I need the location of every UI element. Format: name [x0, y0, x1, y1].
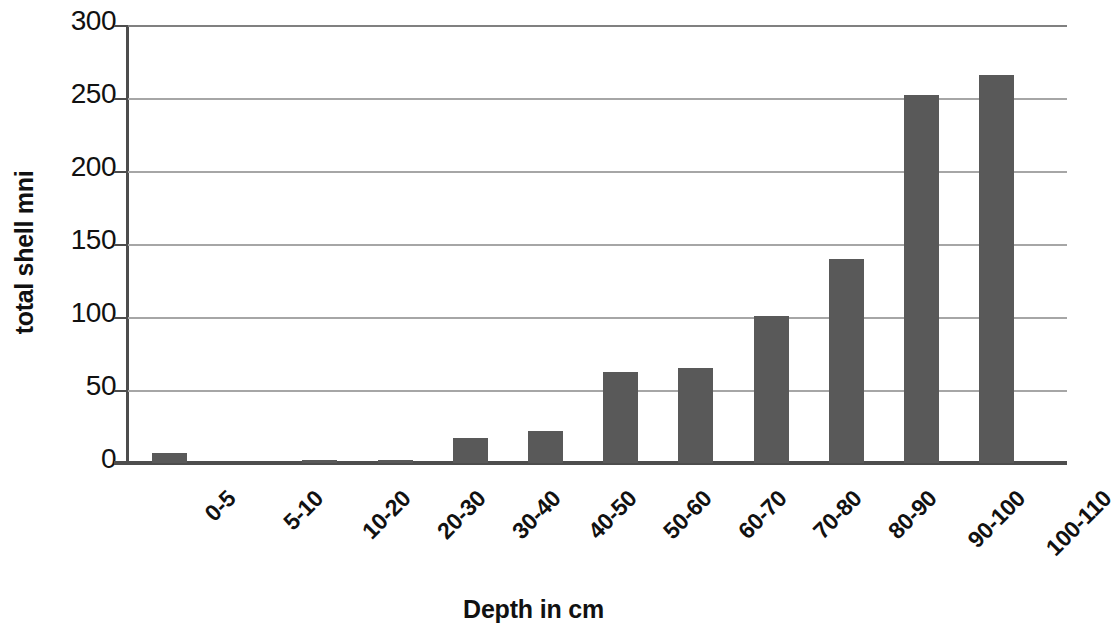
x-axis-tick-label: 60-70 — [733, 485, 793, 545]
bar — [754, 316, 789, 463]
x-axis-tick-label: 80-90 — [883, 485, 943, 545]
x-axis-tick-label: 0-5 — [199, 485, 241, 527]
bar — [904, 95, 939, 463]
x-axis-tick-label: 30-40 — [507, 485, 567, 545]
bar — [528, 431, 563, 463]
y-axis-tick-label: 150 — [34, 226, 116, 254]
x-axis-title: Depth in cm — [0, 595, 1067, 624]
x-axis-tick-label: 40-50 — [582, 485, 642, 545]
bar — [453, 438, 488, 463]
bar — [152, 453, 187, 463]
x-axis-tick-label: 70-80 — [808, 485, 868, 545]
x-axis-tick-label: 100-110 — [1040, 485, 1115, 561]
bar — [603, 372, 638, 463]
bar — [678, 368, 713, 463]
y-axis-tick-label: 200 — [34, 153, 116, 181]
x-axis-tick-labels: 0-55-1010-2020-3030-4040-5050-6060-7070-… — [128, 463, 1067, 583]
y-axis-tick-label: 50 — [34, 372, 116, 400]
x-axis-tick-label: 90-100 — [962, 485, 1030, 553]
plot-area — [128, 25, 1067, 463]
gridline — [128, 25, 1067, 27]
x-axis-tick-label: 5-10 — [278, 485, 329, 536]
bar — [829, 259, 864, 463]
y-axis-tick-label: 250 — [34, 80, 116, 108]
x-axis-tick-label: 10-20 — [357, 485, 417, 545]
y-axis-tick-labels: 050100150200250300 — [34, 0, 116, 480]
y-axis-tick-label: 100 — [34, 299, 116, 327]
y-axis-tick-label: 300 — [34, 7, 116, 35]
x-axis-tick-label: 50-60 — [657, 485, 717, 545]
y-axis-tick-label: 0 — [34, 445, 116, 473]
x-axis-tick-label: 20-30 — [432, 485, 492, 545]
bar — [979, 75, 1014, 463]
